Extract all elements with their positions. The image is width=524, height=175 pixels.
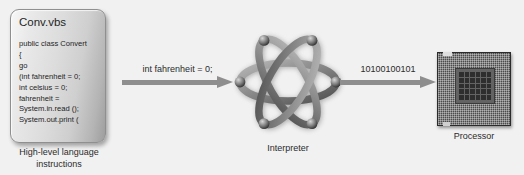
arrow-label-source: int fahrenheit = 0; xyxy=(122,64,233,74)
code-line: System.in.read (); xyxy=(19,104,101,115)
code-line: int celsius = 0; xyxy=(19,83,101,94)
code-line: go xyxy=(19,61,101,72)
code-line: public class Convert xyxy=(19,39,101,50)
atom-orbits xyxy=(240,31,336,133)
arrow-shaft xyxy=(122,80,217,85)
arrow-label-binary: 10100100101 xyxy=(340,64,436,74)
cpu-notch xyxy=(443,52,452,56)
diagram-canvas: Conv.vbs public class Convert { go (int … xyxy=(0,0,524,175)
atom-svg xyxy=(228,22,348,142)
arrow-interpreter-to-processor: 10100100101 xyxy=(340,76,436,89)
code-listing: public class Convert { go (int fahrenhei… xyxy=(19,39,101,126)
code-line: System.out.print ( xyxy=(19,115,101,126)
code-line: { xyxy=(19,50,101,61)
arrow-head-icon xyxy=(420,76,436,88)
code-line: fahrenheit = xyxy=(19,94,101,105)
processor-caption: Processor xyxy=(424,131,524,141)
interpreter-caption: Interpreter xyxy=(228,143,348,153)
cpu-die xyxy=(455,68,495,104)
code-card-caption: High-level language instructions xyxy=(0,146,118,170)
arrow-source-to-interpreter: int fahrenheit = 0; xyxy=(122,76,233,89)
code-file-title: Conv.vbs xyxy=(19,16,66,28)
code-card: Conv.vbs public class Convert { go (int … xyxy=(10,9,106,143)
code-line: (int fahrenheit = 0; xyxy=(19,72,101,83)
atom-icon xyxy=(228,22,348,142)
cpu-notch-bottom xyxy=(443,122,450,126)
cpu-chip-icon xyxy=(437,52,511,126)
arrow-shaft xyxy=(340,80,420,85)
